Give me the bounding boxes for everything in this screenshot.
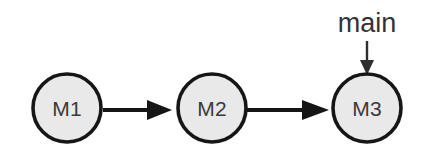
- node-m2-label: M2: [197, 97, 227, 120]
- diagram-svg: M1 M2 M3 main: [0, 0, 429, 160]
- entry-point-label: main: [338, 8, 397, 38]
- edge-m1-to-m2-arrowhead: [147, 100, 172, 120]
- entry-arrow-main-to-m3: [360, 41, 374, 75]
- edge-m2-to-m3-arrowhead: [302, 100, 329, 120]
- node-m1-label: M1: [52, 97, 82, 120]
- diagram-canvas: M1 M2 M3 main: [0, 0, 429, 160]
- node-m2[interactable]: M2: [178, 74, 246, 142]
- node-m3-label: M3: [352, 97, 382, 120]
- node-m3[interactable]: M3: [333, 74, 401, 142]
- node-m1[interactable]: M1: [33, 74, 101, 142]
- edge-m2-to-m3: [247, 100, 329, 120]
- edge-m1-to-m2: [103, 100, 172, 120]
